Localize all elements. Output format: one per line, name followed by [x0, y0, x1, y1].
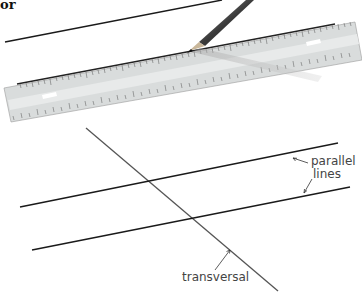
- drawn-line: [5, 0, 222, 42]
- parallel-label-line2: lines: [313, 168, 341, 181]
- transversal-line: [86, 128, 278, 291]
- geometry-figure: or: [0, 0, 362, 299]
- figure-canvas: [0, 0, 362, 299]
- ruler-icon: [4, 22, 362, 122]
- arrow-to-transversal: [215, 250, 230, 270]
- annotation-arrows: [215, 158, 312, 270]
- arrow-to-line-2: [304, 179, 312, 193]
- transversal-label: transversal: [182, 271, 249, 284]
- parallel-line-2: [32, 187, 350, 250]
- parallel-line-1: [20, 143, 338, 207]
